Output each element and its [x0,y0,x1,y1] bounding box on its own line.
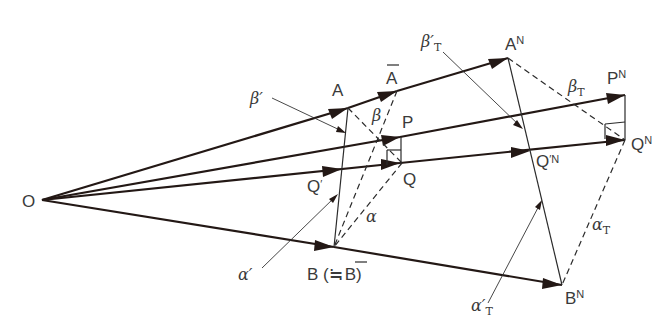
label-Q: Q [403,170,416,189]
vector-diagram: O A A AN P PN Q Q′ Q′N QN B (≒B) BN β′ β… [0,0,672,331]
label-B: B (≒B) [307,265,362,284]
label-B-N: BN [565,288,584,308]
label-A: A [332,81,344,100]
vector-B-BN [334,247,562,285]
arrowhead-Abar [377,91,397,102]
label-beta-T: βT [567,77,585,99]
label-beta-prime: β′ [249,89,263,108]
leader-beta-prime-arrowhead [336,126,346,133]
label-alpha: α [366,207,377,226]
arrowhead-Qprime [322,166,342,177]
leader-alpha-prime-T [488,202,541,303]
label-beta-prime-T: β′T [420,32,442,54]
arrowhead-QprimeN [511,147,530,158]
leader-alpha-prime [262,196,336,268]
label-P: P [402,113,413,132]
label-O: O [22,192,35,211]
arrowhead-AN [488,58,508,69]
dashed-QN-BN [562,140,625,285]
dashed-Q-B [334,163,402,247]
right-angle-mark-QN [605,122,625,124]
label-P-N: PN [607,68,626,88]
label-Q-prime: Q′ [307,177,322,196]
label-Q-N: QN [631,134,652,154]
label-A-bar-text: A [386,69,398,88]
leader-alpha-prime-T-arrowhead [535,200,542,210]
label-B-group: B (≒B) [307,262,367,284]
line-AN-BN [508,58,562,285]
label-beta: β [371,106,381,125]
label-alpha-prime: α′ [238,265,253,284]
label-A-N: AN [505,34,524,54]
label-A-bar: A [386,65,399,88]
arrowhead-Q [381,159,400,170]
arrowhead-QN [606,135,625,146]
arrowhead-A [328,108,348,119]
label-Q-prime-N: Q′N [536,152,559,171]
label-alpha-T: αT [592,215,611,237]
